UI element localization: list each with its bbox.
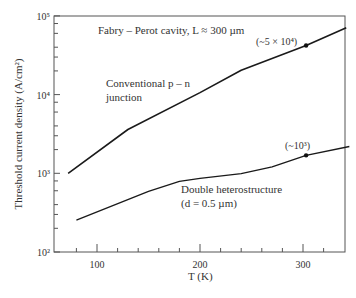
x-tick-label: 200 — [193, 259, 208, 270]
y-tick-label: 10⁵ — [37, 11, 51, 22]
series-1-marker-label: (~5 × 10⁴) — [256, 36, 297, 48]
x-tick-label: 300 — [296, 259, 311, 270]
plot-frame — [54, 16, 345, 252]
x-tick-label: 100 — [90, 259, 105, 270]
y-tick-label: 10³ — [37, 168, 50, 179]
series-1-label-line1: Conventional p – n — [106, 77, 191, 89]
x-axis-title: T (K) — [188, 270, 213, 283]
cavity-annotation: Fabry – Perot cavity, L ≈ 300 µm — [98, 24, 245, 36]
series-1-label-line2: junction — [105, 91, 143, 103]
y-tick-label: 10² — [37, 247, 50, 258]
y-tick-label: 10⁴ — [37, 90, 51, 101]
series-2-marker — [304, 153, 308, 157]
series-1-marker — [304, 43, 308, 47]
y-axis-ticks: 10²10³10⁴10⁵ — [37, 11, 61, 258]
series-2-marker-label: (~10³) — [285, 140, 310, 152]
threshold-current-chart: 10²10³10⁴10⁵ 100200300 Fabry – Perot cav… — [0, 0, 356, 298]
plot-border — [54, 16, 345, 252]
y-axis-title: Threshold current density (A/cm²) — [12, 58, 25, 209]
x-axis-ticks: 100200300 — [76, 244, 323, 270]
series-2-label-line2: (d = 0.5 µm) — [181, 197, 237, 210]
series-2-label-line1: Double heterostructure — [181, 183, 282, 195]
